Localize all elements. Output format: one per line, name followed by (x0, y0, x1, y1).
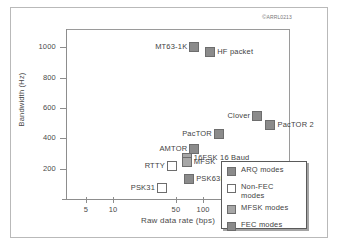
legend-item: MFSK modes (227, 204, 306, 217)
y-tick-mark (60, 138, 67, 139)
legend-label: FEC modes (241, 221, 282, 230)
data-point-label: PacTOR 2 (277, 120, 313, 129)
y-tick-label: 200 (16, 165, 56, 173)
x-tick-mark (113, 197, 114, 203)
legend-item: ARQ modes (227, 166, 306, 179)
copyright-text: ARRL0213 (267, 14, 292, 20)
legend-swatch (227, 167, 236, 176)
data-point-marker (157, 183, 167, 193)
data-point-label: PacTOR (182, 129, 212, 138)
y-tick-mark (60, 169, 67, 170)
data-point-marker (205, 47, 215, 57)
y-tick-label: 800 (16, 74, 56, 82)
y-tick-label: 400 (16, 134, 56, 142)
data-point-label: MT63-1K (155, 42, 187, 51)
x-tick-mark (203, 197, 204, 203)
data-point-label: RTTY (145, 161, 165, 170)
legend-label: MFSK modes (241, 204, 288, 213)
y-axis-line (66, 29, 67, 199)
y-tick-label: 600 (16, 104, 56, 112)
y-tick-mark (60, 47, 67, 48)
data-point-label: AMTOR (159, 144, 187, 153)
legend-swatch (227, 184, 236, 193)
data-point-marker (167, 161, 177, 171)
data-point-marker (184, 174, 194, 184)
plot-top-border (66, 29, 290, 30)
data-point-marker (182, 157, 192, 167)
chart-legend: ARQ modesNon-FEC modesMFSK modesFEC mode… (221, 161, 307, 229)
data-point-marker (189, 42, 199, 52)
data-point-marker (265, 120, 275, 130)
copyright-notice: ©ARRL0213 (262, 14, 292, 20)
y-tick-mark (60, 78, 67, 79)
legend-item: FEC modes (227, 221, 306, 234)
x-tick-mark (86, 197, 87, 203)
legend-label: ARQ modes (241, 166, 284, 175)
data-point-label: MFSK (194, 157, 216, 166)
chart-figure: ©ARRL0213 Bandwidth (Hz) Raw data rate (… (0, 0, 338, 251)
legend-item: Non-FEC modes (227, 183, 306, 200)
legend-swatch (227, 205, 236, 214)
y-tick-mark (60, 108, 67, 109)
data-point-marker (252, 111, 262, 121)
y-tick-label: 1000 (16, 43, 56, 51)
data-point-label: HF packet (217, 47, 253, 56)
x-tick-mark (176, 197, 177, 203)
legend-label: Non-FEC modes (241, 183, 274, 200)
x-tick-label: 10 (96, 205, 130, 214)
data-point-label: Clover (227, 111, 250, 120)
legend-swatch (227, 222, 236, 231)
x-tick-label: 100 (186, 205, 220, 214)
data-point-label: PSK31 (131, 183, 155, 192)
data-point-marker (214, 129, 224, 139)
